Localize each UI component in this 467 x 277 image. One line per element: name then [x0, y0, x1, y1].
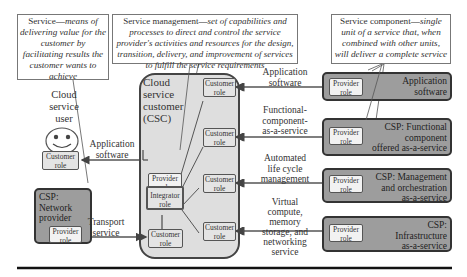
title-line: component — [372, 133, 447, 144]
definition-term: Service — [28, 16, 56, 26]
flow-line: component- — [252, 116, 318, 127]
network-provider-role[interactable]: Provider role — [49, 226, 82, 243]
flow-line: networking — [252, 237, 318, 247]
provider-functional-component[interactable]: CSP: Functional component offered as-a-s… — [322, 118, 452, 156]
role-line: role — [330, 235, 362, 244]
title-line: Infrastructure — [395, 231, 447, 242]
csc-customer-role-transport[interactable]: Customer role — [148, 229, 183, 248]
title-line: provider — [39, 213, 72, 224]
title-line: CSP: Functional — [372, 122, 447, 133]
label-line: Cloud — [44, 89, 84, 101]
role-line: role — [204, 139, 235, 148]
flow-line: management — [252, 174, 318, 185]
title-line: as-a-service — [375, 193, 447, 204]
flow-line: Functional- — [252, 105, 318, 116]
flow-line: Automated — [252, 153, 318, 164]
flow-line: software — [86, 150, 138, 161]
title-line: customer — [143, 100, 183, 112]
provider-role[interactable]: Provider role — [329, 127, 363, 145]
role-line: role — [149, 240, 182, 249]
provider-role[interactable]: Provider role — [329, 78, 363, 96]
cloud-service-user-label: Cloud service user — [44, 89, 84, 125]
role-line: role — [330, 138, 362, 147]
title-line: as-a-service — [395, 241, 447, 252]
flow-line: software — [255, 78, 315, 89]
flow-label-transport-service: Transport service — [80, 217, 132, 238]
label-line: service — [44, 101, 84, 113]
flow-line: service — [80, 228, 132, 239]
role-line: role — [204, 89, 235, 98]
provider-title: CSP: Functional component offered as-a-s… — [372, 122, 447, 154]
role-line: role — [330, 89, 362, 98]
network-provider-title: CSP: Network provider — [39, 192, 72, 224]
role-line: role — [204, 185, 235, 194]
flow-line: memory — [252, 217, 318, 227]
flow-label-application-software-left: Application software — [86, 139, 138, 160]
flow-line: service — [252, 247, 318, 257]
provider-infrastructure[interactable]: CSP: Infrastructure as-a-service Provide… — [322, 216, 452, 252]
csc-customer-role-infrastructure[interactable]: Customer role — [203, 222, 236, 241]
flow-line: life cycle — [252, 164, 318, 175]
csc-customer-role-functional[interactable]: Customer role — [203, 128, 236, 147]
title-line: (CSC) — [143, 112, 183, 124]
flow-line: Transport — [80, 217, 132, 228]
provider-application-software[interactable]: Application software Provider role — [322, 72, 452, 101]
flow-label-automated-lifecycle: Automated life cycle management — [252, 153, 318, 185]
role-line: role — [43, 162, 78, 171]
provider-title: Application software — [402, 76, 447, 97]
title-line: CSP: — [39, 192, 72, 203]
role-line: role — [148, 201, 182, 210]
title-line: CSP: — [395, 220, 447, 231]
csc-title: Cloud service customer (CSC) — [143, 76, 183, 124]
provider-title: CSP: Management and orchestration as-a-s… — [375, 172, 447, 204]
title-line: Cloud — [143, 76, 183, 88]
csc-customer-role-application[interactable]: Customer role — [203, 78, 236, 97]
flow-label-application-software: Application software — [255, 67, 315, 88]
title-line: offered as-a-service — [372, 143, 447, 154]
definition-term: Service management — [123, 16, 198, 26]
flow-label-functional-component: Functional- component- as-a-service — [252, 105, 318, 137]
provider-role[interactable]: Provider role — [329, 224, 363, 242]
flow-label-virtual-compute: Virtual compute, memory storage, and net… — [252, 197, 318, 257]
definition-service-management: Service management—set of capabilities a… — [112, 14, 298, 64]
flow-line: Virtual — [252, 197, 318, 207]
definition-service: Service—means of delivering value for th… — [17, 14, 109, 80]
title-line: and orchestration — [375, 183, 447, 194]
flow-line: compute, — [252, 207, 318, 217]
csc-integrator-role[interactable]: Integrator role — [146, 186, 184, 210]
flow-line: storage, and — [252, 227, 318, 237]
role-line: role — [330, 186, 362, 195]
flow-line: Application — [255, 67, 315, 78]
title-line: Network — [39, 203, 72, 214]
title-line: service — [143, 88, 183, 100]
label-line: user — [44, 113, 84, 125]
flow-line: as-a-service — [252, 126, 318, 137]
provider-role[interactable]: Provider role — [329, 175, 363, 193]
definition-term: Service component — [340, 16, 411, 26]
definition-service-component: Service component—single unit of a servi… — [331, 14, 451, 64]
provider-management-orchestration[interactable]: CSP: Management and orchestration as-a-s… — [322, 168, 452, 203]
title-line: Application — [402, 76, 447, 87]
cloud-user-customer-role[interactable]: Customer role — [42, 151, 79, 170]
title-line: software — [402, 87, 447, 98]
title-line: CSP: Management — [375, 172, 447, 183]
flow-line: Application — [86, 139, 138, 150]
role-line: role — [50, 237, 81, 246]
role-line: role — [204, 233, 235, 242]
csc-customer-role-management[interactable]: Customer role — [203, 174, 236, 193]
provider-title: CSP: Infrastructure as-a-service — [395, 220, 447, 252]
